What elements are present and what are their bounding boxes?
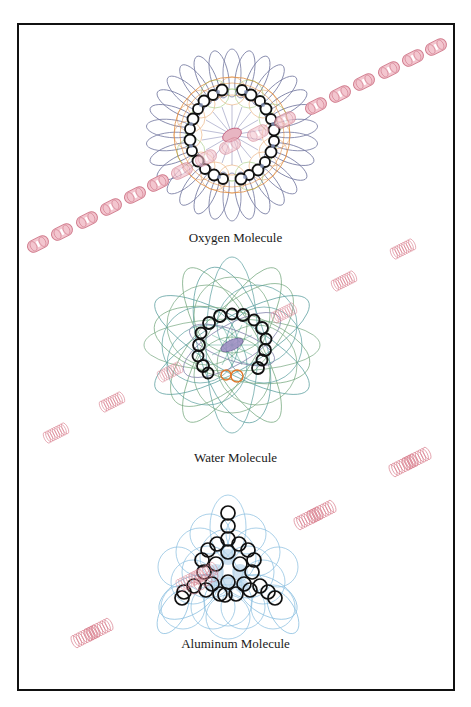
figure-drawing (0, 0, 471, 707)
aluminum-molecule-label: Aluminum Molecule (0, 636, 471, 652)
water-molecule-label: Water Molecule (0, 450, 471, 466)
aluminum-molecule-diagram (151, 495, 306, 639)
coil-chain-lower (69, 446, 432, 649)
water-molecule-diagram (143, 256, 321, 434)
figure: Oxygen Molecule Water Molecule Aluminum … (0, 0, 471, 707)
oxygen-molecule-diagram (146, 49, 319, 221)
oxygen-molecule-label: Oxygen Molecule (0, 230, 471, 246)
